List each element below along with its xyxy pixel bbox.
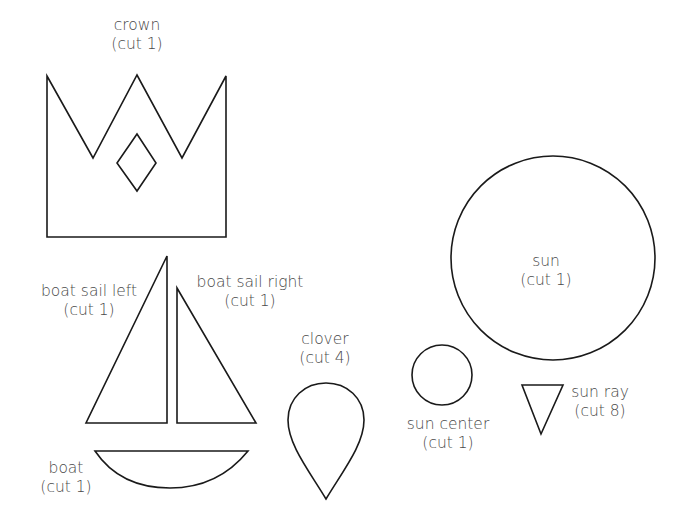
- boat-sail-right-label: boat sail right (cut 1): [197, 273, 304, 311]
- boat-sail-left-label: boat sail left (cut 1): [41, 282, 137, 320]
- boat-sail-left-label-count: (cut 1): [41, 301, 137, 320]
- sun-center-shape: [412, 345, 472, 405]
- boat-shape: [95, 451, 248, 488]
- boat-sail-right-label-count: (cut 1): [197, 292, 304, 311]
- clover-label-name: clover: [299, 330, 350, 349]
- boat-label-name: boat: [40, 459, 91, 478]
- crown-diamond-shape: [117, 134, 156, 191]
- sun-label: sun (cut 1): [520, 252, 571, 290]
- crown-label-count: (cut 1): [111, 35, 162, 54]
- sun-ray-label-name: sun ray: [571, 383, 629, 402]
- template-canvas: [0, 0, 681, 526]
- boat-label: boat (cut 1): [40, 459, 91, 497]
- crown-shape: [47, 75, 226, 237]
- clover-label: clover (cut 4): [299, 330, 350, 368]
- sun-ray-shape: [522, 385, 563, 434]
- sun-label-count: (cut 1): [520, 271, 571, 290]
- sun-ray-label: sun ray (cut 8): [571, 383, 629, 421]
- crown-label: crown (cut 1): [111, 16, 162, 54]
- boat-label-count: (cut 1): [40, 478, 91, 497]
- crown-label-name: crown: [111, 16, 162, 35]
- clover-label-count: (cut 4): [299, 349, 350, 368]
- sun-label-name: sun: [520, 252, 571, 271]
- sun-ray-label-count: (cut 8): [571, 402, 629, 421]
- clover-shape: [288, 383, 364, 499]
- sun-center-label-count: (cut 1): [407, 434, 490, 453]
- boat-sail-left-label-name: boat sail left: [41, 282, 137, 301]
- boat-sail-right-label-name: boat sail right: [197, 273, 304, 292]
- sun-center-label-name: sun center: [407, 415, 490, 434]
- sun-center-label: sun center (cut 1): [407, 415, 490, 453]
